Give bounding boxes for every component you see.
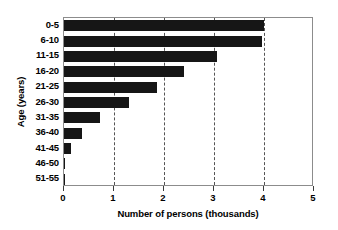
y-axis-tick-label: 11-15 [14,49,59,61]
x-axis-tick-label: 4 [251,192,275,204]
x-axis-tick-label: 2 [151,192,175,204]
y-axis-tick-label: 6-10 [14,34,59,46]
y-axis-tick-label: 31-35 [14,111,59,123]
y-axis-tick-label: 26-30 [14,96,59,108]
y-axis-tick-label: 0-5 [14,19,59,31]
x-axis-title: Number of persons (thousands) [63,208,313,219]
bar [64,51,217,62]
gridline [264,18,265,185]
bar [64,20,264,31]
x-axis-tick-label: 5 [301,192,325,204]
y-axis-tick-label: 36-40 [14,126,59,138]
y-axis-tick-label: 46-50 [14,157,59,169]
bar-chart: Age (years) 0-56-1011-1516-2021-2526-303… [0,0,338,230]
bar [64,112,100,123]
x-axis-tick-label: 1 [101,192,125,204]
bar [64,36,262,47]
x-axis-tick-mark [213,186,214,191]
bar [64,143,71,154]
y-axis-tick-label: 21-25 [14,80,59,92]
x-axis-tick-mark [163,186,164,191]
plot-area [63,17,313,186]
bar [64,128,82,139]
x-axis-tick-label: 3 [201,192,225,204]
bar [64,82,157,93]
x-axis-tick-label: 0 [51,192,75,204]
y-axis-tick-labels: 0-56-1011-1516-2021-2526-3031-3536-4041-… [14,17,59,186]
bar [64,66,184,77]
bar [64,97,129,108]
plot-inner [64,18,312,185]
y-axis-tick-label: 41-45 [14,142,59,154]
y-axis-tick-label: 16-20 [14,65,59,77]
x-axis-tick-mark [313,186,314,191]
x-axis-tick-mark [63,186,64,191]
bar [64,158,65,169]
bar [64,174,65,185]
x-axis-tick-mark [263,186,264,191]
x-axis-tick-mark [113,186,114,191]
y-axis-tick-label: 51-55 [14,172,59,184]
